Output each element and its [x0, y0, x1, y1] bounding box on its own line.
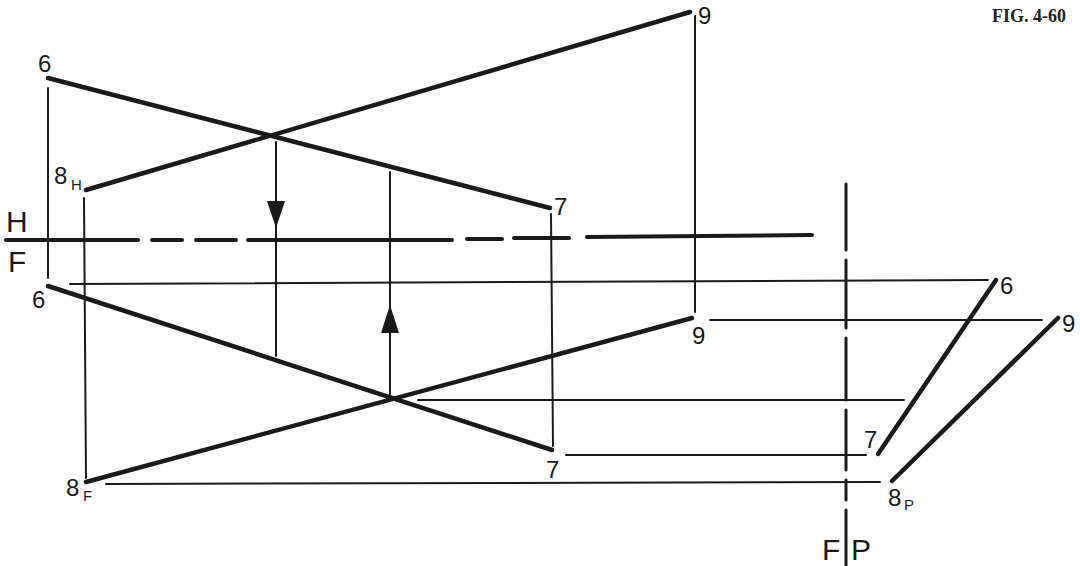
arrow-down-icon	[267, 201, 285, 228]
label-profile-8-sub: P	[904, 496, 914, 513]
label-front-7: 7	[546, 456, 559, 483]
label-profile-6: 6	[1000, 272, 1013, 299]
label-top-8: 8	[54, 162, 67, 189]
label-profile-9: 9	[1062, 310, 1075, 337]
label-top-6: 6	[38, 50, 51, 77]
profile-view-lines	[878, 280, 1058, 481]
label-front-8: 8	[66, 474, 79, 501]
label-top-9: 9	[698, 2, 711, 29]
hf-fold-line	[6, 235, 812, 240]
label-profile-7: 7	[864, 426, 877, 453]
fold-label-f: F	[8, 245, 26, 278]
fold-label-fp-f: F	[822, 533, 840, 566]
top-view-lines	[48, 12, 690, 208]
figure-caption: FIG. 4-60	[992, 6, 1066, 26]
descriptive-geometry-figure: FIG. 4-60 H F F P 6 8 H 7 9 6 8 F 7 9 6 …	[0, 0, 1080, 566]
label-top-8-sub: H	[71, 176, 82, 193]
fold-label-h: H	[6, 205, 28, 238]
label-profile-8: 8	[888, 484, 901, 511]
fold-label-fp-p: P	[851, 533, 871, 566]
arrow-up-icon	[381, 305, 399, 333]
label-front-6: 6	[32, 286, 45, 313]
label-front-8-sub: F	[83, 487, 92, 504]
label-top-7: 7	[554, 193, 567, 220]
front-view-lines	[48, 286, 692, 482]
label-front-9: 9	[692, 322, 705, 349]
projection-lines	[48, 16, 1042, 484]
